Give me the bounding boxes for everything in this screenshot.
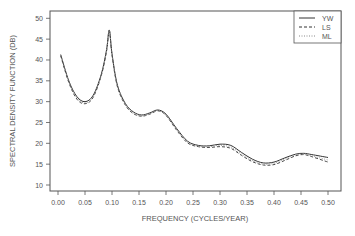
x-axis: 0.000.050.100.150.200.250.300.350.400.45… <box>51 191 335 206</box>
x-axis-label: FREQUENCY (CYCLES/YEAR) <box>142 214 249 223</box>
y-axis-label: SPECTRAL DENSITY FUNCTION (DB) <box>8 34 17 167</box>
y-tick-label: 40 <box>35 56 43 63</box>
x-tick-label: 0.05 <box>78 199 92 206</box>
y-axis: 101520253035404550 <box>35 15 50 189</box>
y-tick-label: 10 <box>35 182 43 189</box>
x-tick-label: 0.15 <box>132 199 146 206</box>
x-tick-label: 0.30 <box>213 199 227 206</box>
y-tick-label: 25 <box>35 119 43 126</box>
y-tick-label: 30 <box>35 98 43 105</box>
y-tick-label: 50 <box>35 15 43 22</box>
x-tick-label: 0.50 <box>321 199 335 206</box>
x-tick-label: 0.45 <box>294 199 308 206</box>
legend-label-yw: YW <box>322 15 334 22</box>
y-tick-label: 20 <box>35 140 43 147</box>
series-line-yw <box>61 30 328 163</box>
x-tick-label: 0.35 <box>240 199 254 206</box>
x-tick-label: 0.40 <box>267 199 281 206</box>
spectral-density-chart: 101520253035404550 0.000.050.100.150.200… <box>0 0 355 236</box>
x-tick-label: 0.00 <box>51 199 65 206</box>
y-tick-label: 35 <box>35 77 43 84</box>
legend-label-ml: ML <box>322 33 332 40</box>
x-tick-label: 0.25 <box>186 199 200 206</box>
legend: YW LS ML <box>294 11 341 43</box>
legend-label-ls: LS <box>322 24 331 31</box>
y-tick-label: 15 <box>35 161 43 168</box>
x-tick-label: 0.10 <box>105 199 119 206</box>
x-tick-label: 0.20 <box>159 199 173 206</box>
series-lines <box>61 30 328 165</box>
y-tick-label: 45 <box>35 36 43 43</box>
